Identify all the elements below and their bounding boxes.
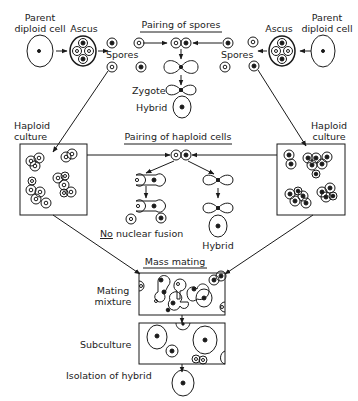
label-prefix: No (100, 228, 113, 239)
hybrid-top (173, 96, 191, 118)
zygote-haploid (203, 203, 233, 213)
hybrid-haploid (209, 215, 227, 237)
spores-right-label: Spores (221, 49, 253, 60)
spore-pair (171, 38, 191, 48)
label-line: mixture (90, 296, 136, 307)
pairing-haploid-title: Pairing of haploid cells (124, 131, 232, 142)
mating-mixture-label: Mating mixture (90, 285, 136, 307)
zygote-label: Zygote (132, 85, 166, 96)
hybrid-haploid-label: Hybrid (200, 240, 236, 251)
isolated-hybrid (172, 370, 194, 396)
mass-mating-title: Mass mating (143, 256, 207, 267)
subculture-cells (147, 323, 225, 364)
subculture-label: Subculture (80, 339, 131, 350)
zygote (166, 85, 196, 95)
label-line: culture (306, 131, 352, 142)
yeast-hybridization-diagram (0, 0, 358, 401)
label-line: culture (14, 131, 50, 142)
no-nuclear-fusion-label: No nuclear fusion (100, 228, 183, 239)
label-line: Parent (297, 12, 357, 23)
label-line: Haploid (14, 120, 50, 131)
label-line: Parent (14, 12, 66, 23)
label-rest: nuclear fusion (113, 228, 183, 239)
parent-diploid-cell-right (311, 35, 335, 67)
label-line: diploid cell (14, 23, 66, 34)
conjugated-cells-no-fusion (135, 174, 165, 186)
no-fusion-budding (126, 200, 166, 224)
ascus-right-label: Ascus (263, 23, 295, 34)
haploid-pair (171, 150, 191, 160)
ascus-left-label: Ascus (68, 23, 100, 34)
fusing-cells (164, 61, 198, 74)
label-line: Haploid (306, 120, 352, 131)
haploid-cells-right (284, 150, 337, 208)
spores-left-label: Spores (106, 49, 138, 60)
isolation-of-hybrid-label: Isolation of hybrid (66, 370, 152, 381)
haploid-culture-right-label: Haploid culture (306, 120, 352, 142)
parent-diploid-cell-left (27, 35, 53, 67)
fused-cells (203, 175, 233, 185)
label-line: diploid cell (297, 23, 357, 34)
haploid-culture-left-label: Haploid culture (14, 120, 50, 142)
ascus-left (70, 36, 96, 66)
mating-mixture-cells (139, 271, 226, 312)
parent-diploid-cell-left-label: Parent diploid cell (14, 12, 66, 34)
ascus-right (269, 36, 295, 66)
parent-diploid-cell-right-label: Parent diploid cell (297, 12, 357, 34)
haploid-cells-left (26, 149, 77, 208)
hybrid-top-label: Hybrid (136, 102, 167, 113)
pairing-of-spores-title: Pairing of spores (140, 19, 222, 30)
label-line: Mating (90, 285, 136, 296)
